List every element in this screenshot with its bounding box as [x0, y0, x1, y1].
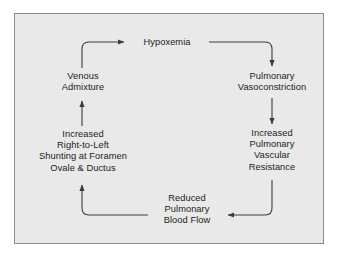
- node-pulmonary-vasoconstriction-line-1: Vasoconstriction: [238, 82, 306, 93]
- node-increased-shunting-line-1: Right-to-Left: [39, 140, 127, 151]
- node-increased-shunting-line-2: Shunting at Foramen: [39, 151, 127, 162]
- node-hypoxemia: Hypoxemia: [142, 37, 193, 48]
- node-reduced-pulmonary-blood-flow-line-2: Blood Flow: [164, 215, 211, 226]
- node-increased-right-to-left-shunting: Increased Right-to-Left Shunting at Fora…: [39, 129, 127, 174]
- node-increased-pulmonary-vascular-resistance: Increased Pulmonary Vascular Resistance: [249, 128, 296, 173]
- node-pulmonary-vasoconstriction-line-0: Pulmonary: [238, 71, 306, 82]
- node-increased-shunting-line-3: Ovale & Ductus: [39, 163, 127, 174]
- node-increased-pvr-line-0: Increased: [249, 128, 296, 139]
- node-venous-admixture-line-1: Admixture: [62, 82, 104, 93]
- node-pulmonary-vasoconstriction: Pulmonary Vasoconstriction: [238, 71, 306, 93]
- node-hypoxemia-line-0: Hypoxemia: [144, 37, 191, 48]
- node-increased-pvr-line-2: Vascular: [249, 150, 296, 161]
- node-increased-pvr-line-3: Resistance: [249, 162, 296, 173]
- node-reduced-pulmonary-blood-flow-line-1: Pulmonary: [164, 204, 211, 215]
- node-venous-admixture: Venous Admixture: [62, 71, 104, 93]
- node-venous-admixture-line-0: Venous: [62, 71, 104, 82]
- node-increased-pvr-line-1: Pulmonary: [249, 139, 296, 150]
- node-reduced-pulmonary-blood-flow: Reduced Pulmonary Blood Flow: [164, 193, 211, 227]
- node-increased-shunting-line-0: Increased: [39, 129, 127, 140]
- node-reduced-pulmonary-blood-flow-line-0: Reduced: [164, 193, 211, 204]
- figure-root: Hypoxemia Pulmonary Vasoconstriction Inc…: [0, 0, 338, 262]
